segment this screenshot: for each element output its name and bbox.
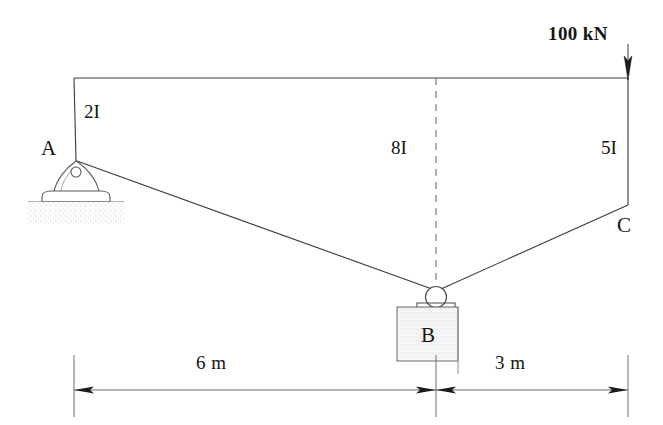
- joint-label-a: A: [41, 138, 56, 159]
- ground-hatch-a: [28, 202, 124, 224]
- dimension-label-6m: 6 m: [196, 353, 227, 372]
- member-b-c: [441, 205, 628, 289]
- dimension-label-3m: 3 m: [495, 353, 526, 372]
- member-a-b: [77, 161, 432, 289]
- roller-circle-b: [426, 287, 447, 308]
- stiffness-label-right: 5I: [601, 138, 617, 157]
- joint-label-c: C: [617, 215, 631, 236]
- stiffness-label-middle: 8I: [391, 138, 407, 157]
- dimension-line-group: [74, 355, 628, 417]
- left-column-member: [74, 78, 76, 161]
- pin-hole-a: [71, 167, 81, 177]
- diagram-canvas: [0, 0, 663, 425]
- structural-diagram-figure: 100 kN 2I 8I 5I A B C 6 m 3 m: [0, 0, 663, 425]
- load-label-100kn: 100 kN: [548, 24, 608, 43]
- joint-label-b: B: [421, 325, 435, 346]
- stiffness-label-left: 2I: [84, 102, 100, 121]
- load-arrow-100kn: [624, 44, 632, 80]
- pin-support-a: [28, 161, 124, 224]
